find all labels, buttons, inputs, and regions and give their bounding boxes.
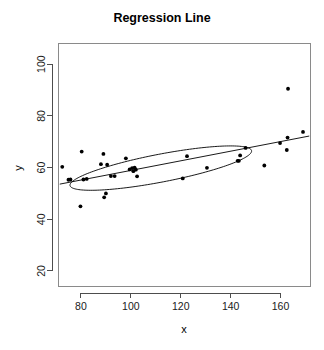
data-point bbox=[80, 150, 84, 154]
y-axis-label: y bbox=[12, 165, 24, 171]
x-tick-label: 120 bbox=[172, 300, 190, 312]
data-point bbox=[60, 165, 64, 169]
plot-frame bbox=[59, 44, 311, 287]
page-title: Regression Line bbox=[113, 11, 210, 25]
data-point bbox=[85, 177, 89, 181]
data-point bbox=[109, 174, 113, 178]
plot-canvas: Regression Line 20406080100 801001201401… bbox=[0, 0, 324, 350]
x-axis: 80100120140160 bbox=[75, 293, 289, 312]
data-point bbox=[185, 154, 189, 158]
data-point bbox=[69, 178, 73, 182]
y-tick-label: 40 bbox=[36, 213, 48, 225]
x-tick-label: 160 bbox=[272, 300, 290, 312]
x-tick-label: 80 bbox=[75, 300, 87, 312]
data-point bbox=[286, 136, 290, 140]
data-point bbox=[286, 87, 290, 91]
data-point bbox=[278, 141, 282, 145]
data-point bbox=[102, 152, 106, 156]
data-point bbox=[301, 130, 305, 134]
y-tick-label: 100 bbox=[36, 55, 48, 73]
data-point bbox=[135, 174, 139, 178]
data-point bbox=[134, 168, 138, 172]
data-point bbox=[82, 178, 86, 182]
data-point bbox=[237, 159, 241, 163]
x-tick-label: 140 bbox=[222, 300, 240, 312]
data-point bbox=[113, 174, 117, 178]
y-tick-label: 60 bbox=[36, 162, 48, 174]
data-point bbox=[104, 192, 108, 196]
regression-plot-figure: Regression Line 20406080100 801001201401… bbox=[0, 0, 324, 350]
data-point bbox=[105, 163, 109, 167]
data-point bbox=[181, 177, 185, 181]
data-point bbox=[79, 204, 83, 208]
data-point bbox=[99, 162, 103, 166]
data-point bbox=[262, 164, 266, 168]
data-point bbox=[238, 154, 242, 158]
x-tick-label: 100 bbox=[122, 300, 140, 312]
data-point bbox=[205, 166, 209, 170]
data-point bbox=[124, 156, 128, 160]
data-point bbox=[244, 146, 248, 150]
y-tick-label: 80 bbox=[36, 110, 48, 122]
y-tick-label: 20 bbox=[36, 265, 48, 277]
x-axis-label: x bbox=[181, 323, 187, 335]
y-axis: 20406080100 bbox=[36, 55, 53, 277]
data-point bbox=[102, 195, 106, 199]
data-point bbox=[285, 148, 289, 152]
